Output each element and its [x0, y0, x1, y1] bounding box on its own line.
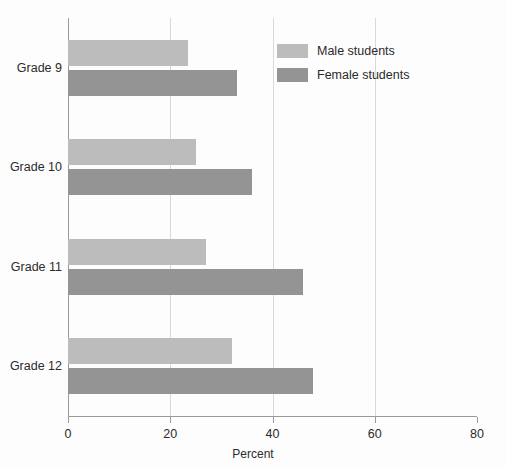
category-label: Grade 10 — [0, 160, 62, 174]
category-label: Grade 11 — [0, 260, 62, 274]
bar-male — [68, 139, 196, 165]
category-label: Grade 9 — [0, 61, 62, 75]
bar-female — [68, 368, 313, 394]
x-tick — [477, 417, 478, 423]
legend: Male students Female students — [277, 44, 409, 92]
x-tick — [170, 417, 171, 423]
x-tick-label: 0 — [48, 427, 88, 441]
bar-male — [68, 40, 188, 66]
legend-item-male: Male students — [277, 44, 409, 58]
bar-chart: Grade 9Grade 10Grade 11Grade 12 02040608… — [0, 0, 506, 467]
x-tick-label: 20 — [150, 427, 190, 441]
bar-female — [68, 70, 237, 96]
bar-male — [68, 338, 232, 364]
x-tick — [68, 417, 69, 423]
x-tick-label: 40 — [253, 427, 293, 441]
x-tick-label: 60 — [355, 427, 395, 441]
legend-label-female: Female students — [317, 68, 409, 82]
legend-swatch-female-icon — [277, 68, 308, 82]
category-label: Grade 12 — [0, 359, 62, 373]
bar-male — [68, 239, 206, 265]
bar-female — [68, 269, 303, 295]
x-tick-label: 80 — [457, 427, 497, 441]
legend-swatch-male-icon — [277, 44, 308, 58]
bar-female — [68, 169, 252, 195]
x-tick — [273, 417, 274, 423]
legend-label-male: Male students — [317, 44, 395, 58]
x-tick — [375, 417, 376, 423]
x-axis-title: Percent — [0, 447, 506, 461]
legend-item-female: Female students — [277, 68, 409, 82]
gridline — [273, 18, 274, 416]
